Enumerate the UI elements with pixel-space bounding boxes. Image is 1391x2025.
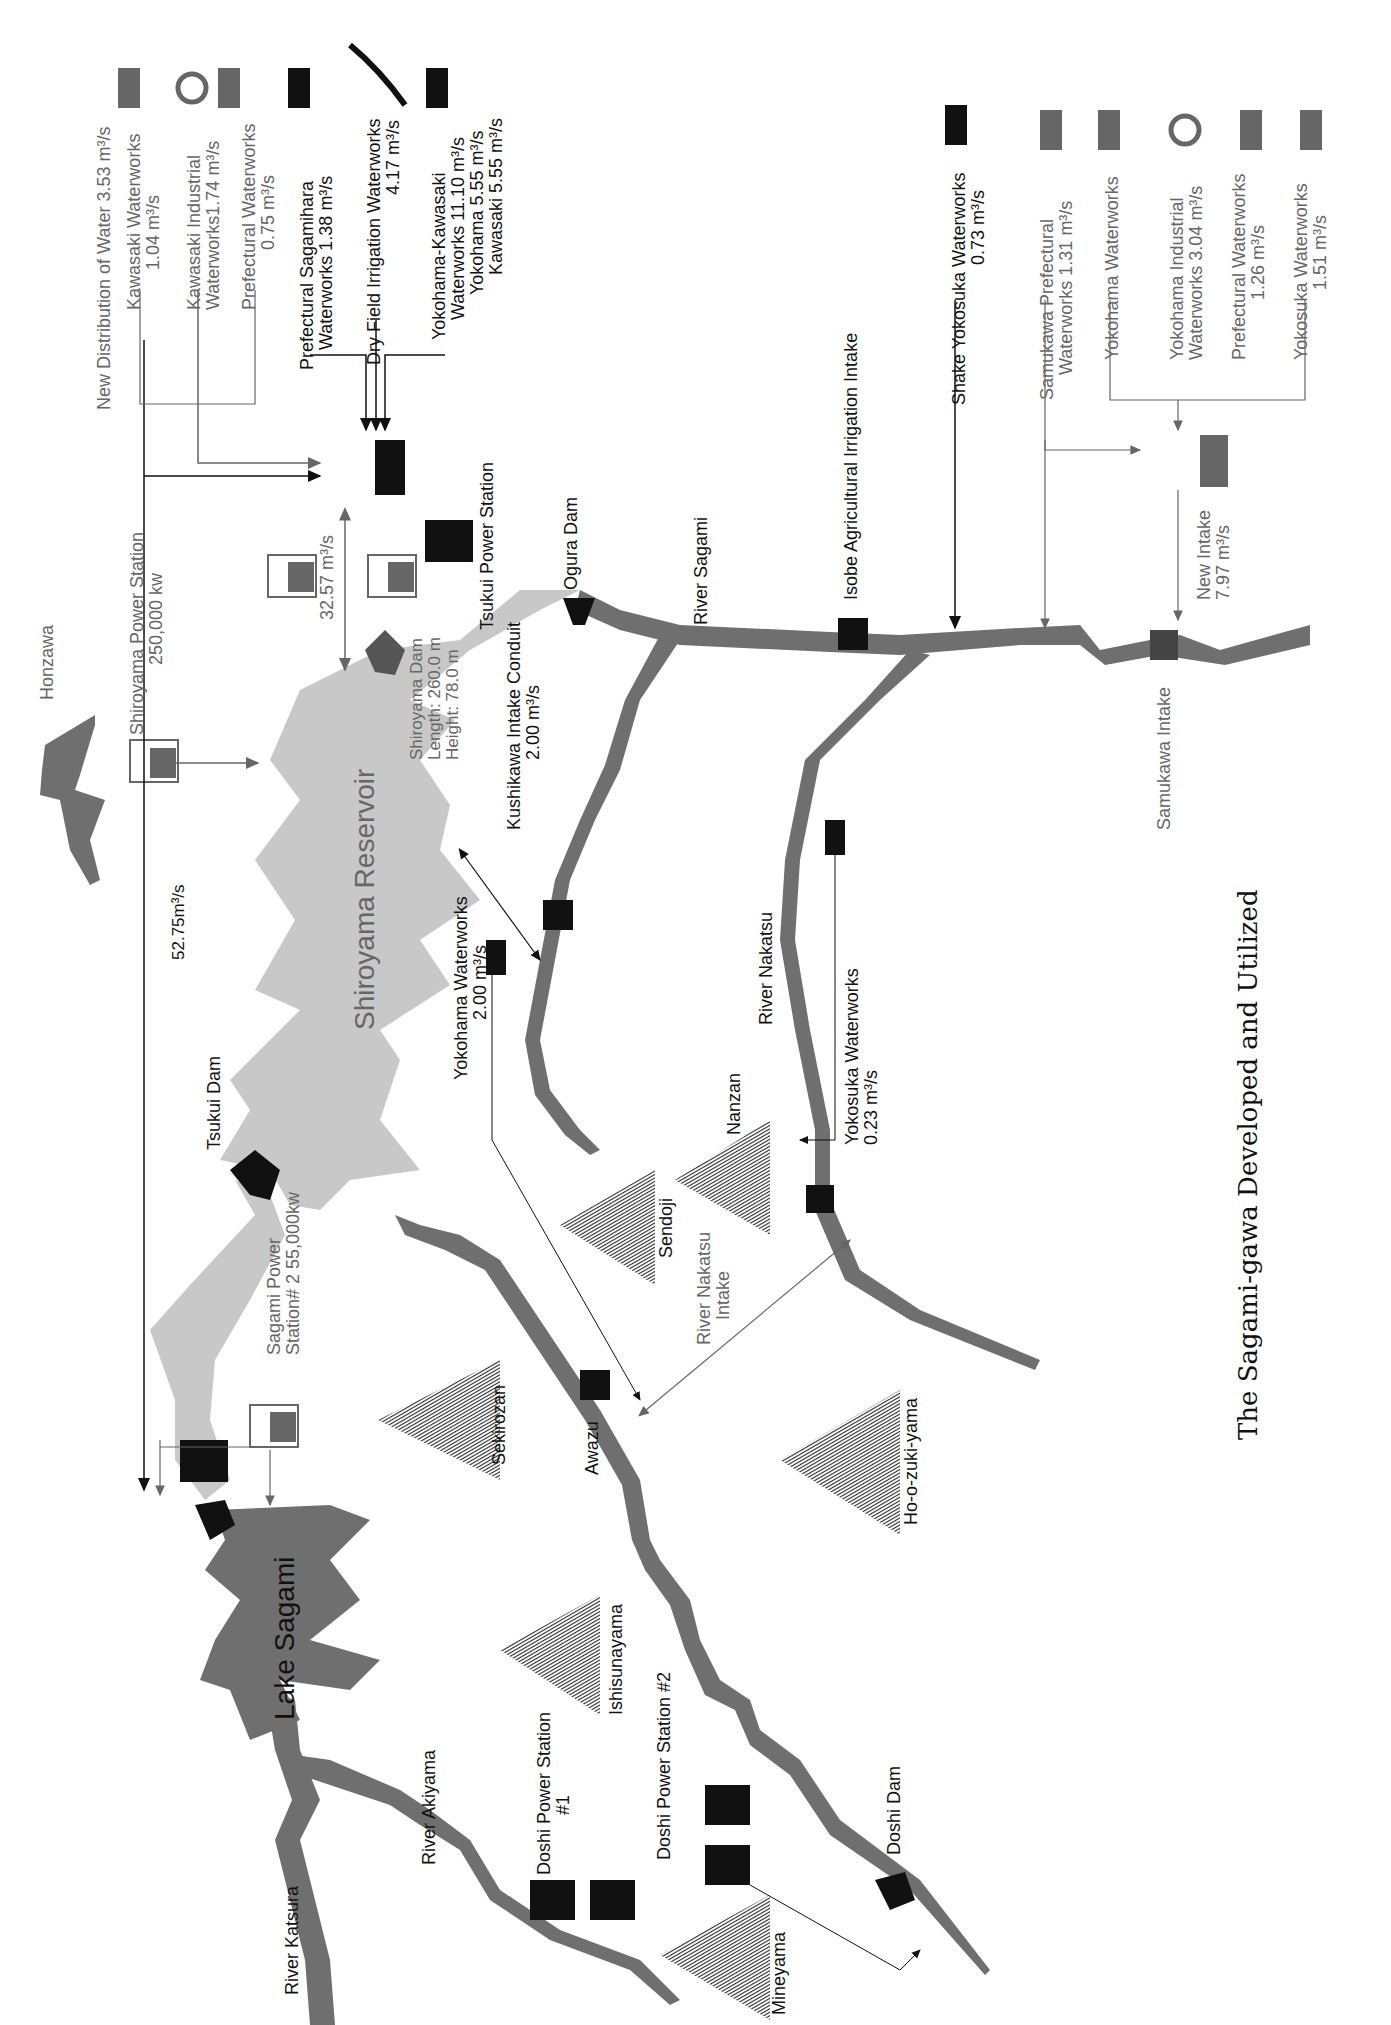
mountain-hoozukiyama xyxy=(780,1390,900,1535)
river-nakatsu-intake-label: River NakatsuIntake xyxy=(695,1232,733,1345)
tsukui-dam-label: Tsukui Dam xyxy=(205,1056,224,1150)
doshi2-power-station-label: Doshi Power Station #2 xyxy=(655,1672,674,1860)
new-distribution-header: New Distribution of Water 3.53 m³/s xyxy=(95,127,114,410)
samukawa-intake-label: Samukawa Intake xyxy=(1155,687,1174,830)
kushikawa-intake-label: Kushikawa Intake Conduit2.00 m³/s xyxy=(505,622,543,830)
doshi-dam-label: Doshi Dam xyxy=(885,1766,904,1855)
gear-icon xyxy=(1171,116,1199,144)
mountain-label-nanzan: Nanzan xyxy=(725,1073,744,1135)
distribution-item: Prefectural SagamiharaWaterworks 1.38 m³… xyxy=(298,176,336,370)
shiroyama-reservoir-label: Shiroyama Reservoir xyxy=(350,769,379,1030)
yokohama-waterworks-label: Yokohama Waterworks2.00 m³/s xyxy=(452,896,490,1080)
distribution-item: Prefectural Waterworks0.75 m³/s xyxy=(240,124,278,310)
flow-tsukui-conduit: 52.75m³/s xyxy=(170,884,188,960)
mountain-nanzan xyxy=(675,1120,770,1235)
distribution-item: Yokosuka Waterworks1.51 m³/s xyxy=(1292,183,1330,360)
distribution-item: Yokohama IndustrialWaterworks 3.04 m³/s xyxy=(1168,186,1206,360)
distribution-item: Kawasaki Waterworks1.04 m³/s xyxy=(125,134,163,310)
gear-icon xyxy=(178,74,206,102)
diagram-title: The Sagami-gawa Developed and Utilized xyxy=(1235,889,1262,1440)
ogura-dam-label: Ogura Dam xyxy=(562,497,581,590)
yokosuka-waterworks-label: Yokosuka Waterworks0.23 m³/s xyxy=(843,968,881,1145)
rice-icon xyxy=(350,45,405,105)
mountain-sekirozan xyxy=(378,1360,500,1480)
river-katsura-label: River Katsura xyxy=(283,1886,302,1995)
mountain-label-mineyama: Mineyama xyxy=(770,1932,789,2015)
mountain-ishisunayama xyxy=(500,1595,600,1715)
shiroyama-power-station-label: Shiroyama Power Station250,000 kw xyxy=(128,532,166,735)
intake-icons xyxy=(375,435,1228,1400)
isobe-intake-label: Isobe Agricultural Irrigation Intake xyxy=(842,333,861,600)
distribution-item: Kawasaki IndustrialWaterworks1.74 m³/s xyxy=(185,141,223,310)
shake-yokosuka-label: Shake Yokosuka Waterworks0.73 m³/s xyxy=(950,173,988,405)
river-akiyama-label: River Akiyama xyxy=(420,1750,439,1865)
mountain-sendoji xyxy=(560,1170,655,1285)
mountain-label-sendoji: Sendoji xyxy=(657,1198,676,1258)
doshi1-power-station-label: Doshi Power Station#1 xyxy=(535,1712,573,1875)
tsukui-power-station-label: Tsukui Power Station xyxy=(478,462,497,630)
distribution-item: Yokohama-KawasakiWaterworks 11.10 m³/sYo… xyxy=(430,118,506,340)
mountain-label-ishisunayama: Ishisunayama xyxy=(607,1604,626,1715)
shiroyama-dam-label: Shiroyama DamLength: 260.0 mHeight: 78.0… xyxy=(408,637,462,760)
distribution-item: Samukawa PrefecturalWaterworks 1.31 m³/s xyxy=(1038,201,1076,400)
honzawa xyxy=(40,715,105,885)
distribution-item: Yokohama Waterworks xyxy=(1103,176,1122,360)
distribution-item: Prefectural Waterworks1.26 m³/s xyxy=(1230,174,1268,360)
flow-shiroyama-pump: 32.57 m³/s xyxy=(318,535,337,620)
mountain-label-hoozukiyama: Ho-o-zuki-yama xyxy=(902,1398,921,1525)
mountain-label-sekirozan: Sekirozan xyxy=(490,1385,509,1465)
river-nakatsu-label: River Nakatsu xyxy=(757,912,776,1025)
distribution-item: Dry Field Irrigation Waterworks4.17 m³/s xyxy=(365,119,403,365)
river-sagami-label: River Sagami xyxy=(692,517,711,625)
honzawa-label: Honzawa xyxy=(38,625,57,700)
awazu-label: Awazu xyxy=(583,1421,602,1475)
new-intake-label: New Intake7.97 m³/s xyxy=(1195,510,1233,600)
lake-sagami-label: Lake Sagami xyxy=(270,1557,299,1720)
sagami2-power-station-label: Sagami PowerStation# 2 55,000kw xyxy=(265,1192,303,1355)
